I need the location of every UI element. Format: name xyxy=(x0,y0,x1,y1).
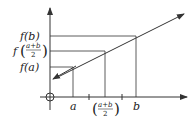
label-fmid-f: f xyxy=(12,45,19,58)
label-a: a xyxy=(70,100,77,113)
label-mid-den: 2 xyxy=(103,110,107,118)
label-b: b xyxy=(133,100,140,113)
label-fmid-den: 2 xyxy=(31,51,35,59)
label-fa: f(a) xyxy=(19,61,39,74)
label-fmid-num: a+b xyxy=(26,42,41,50)
function-diagram: f(b) f ( a+b 2 ) f(a) a ( a+b 2 ) b xyxy=(0,0,192,127)
label-mid-open: ( xyxy=(92,100,98,118)
label-fmid-open: ( xyxy=(20,42,26,60)
label-fmid-close: ) xyxy=(42,42,48,60)
label-mid-close: ) xyxy=(114,100,120,118)
function-line xyxy=(60,14,184,76)
label-mid-num: a+b xyxy=(98,101,113,109)
secondary-arrow xyxy=(53,66,76,79)
